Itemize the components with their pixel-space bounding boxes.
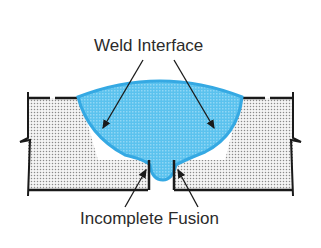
incomplete-fusion-label: Incomplete Fusion (80, 209, 219, 229)
weld-interface-label: Weld Interface (94, 36, 203, 56)
